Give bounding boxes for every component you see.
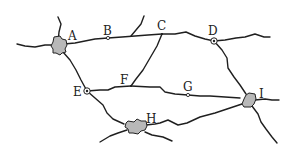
node-e-dot-icon xyxy=(86,90,88,92)
label-d: D xyxy=(208,25,218,37)
label-g: G xyxy=(183,81,193,93)
town-icon xyxy=(125,119,147,134)
town-a xyxy=(51,36,67,55)
label-a: A xyxy=(68,30,77,42)
road-d-i xyxy=(214,41,246,94)
label-f: F xyxy=(120,74,128,86)
road-h-i xyxy=(146,104,242,125)
label-i: I xyxy=(259,88,264,100)
town-icon xyxy=(242,93,256,107)
junction-f-icon xyxy=(130,85,132,87)
label-e: E xyxy=(73,86,82,98)
road-c-north xyxy=(131,16,144,36)
road-d-east xyxy=(214,34,270,41)
label-h: H xyxy=(146,113,156,125)
road-f-g xyxy=(131,86,188,95)
label-c: C xyxy=(157,20,166,32)
node-d-dot-icon xyxy=(213,40,215,42)
road-g-i xyxy=(188,95,240,98)
road-map xyxy=(0,0,294,154)
road-e-h xyxy=(87,91,124,124)
road-c-d xyxy=(162,32,214,41)
town-i xyxy=(242,93,256,107)
label-b: B xyxy=(103,25,112,37)
town-h xyxy=(125,119,147,134)
road-c-f xyxy=(131,34,162,86)
road-i-southeast xyxy=(252,106,277,143)
junction-c-icon xyxy=(161,33,163,35)
road-b-c xyxy=(108,34,162,38)
road-h-south xyxy=(145,132,172,141)
town-icon xyxy=(51,36,67,55)
road-h-west xyxy=(100,130,127,142)
